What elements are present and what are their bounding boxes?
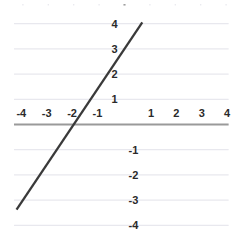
coordinate-plane <box>0 0 241 243</box>
y-tick-label: -2 <box>129 170 139 181</box>
x-tick-label: 4 <box>224 108 230 119</box>
y-tick-label: 4 <box>112 19 118 30</box>
x-tick-label: 3 <box>199 108 205 119</box>
x-tick-label: 2 <box>173 108 179 119</box>
y-tick-label: -4 <box>129 220 139 231</box>
y-tick-label: 2 <box>112 69 118 80</box>
y-tick-label: -3 <box>129 195 139 206</box>
x-tick-label: -2 <box>67 108 77 119</box>
x-tick-label: -1 <box>93 108 103 119</box>
x-tick-label: -4 <box>16 108 26 119</box>
plotted-line <box>17 22 143 209</box>
line-series-group <box>17 22 143 209</box>
y-tick-label: 3 <box>112 44 118 55</box>
y-tick-label: -1 <box>129 145 139 156</box>
graph-screenshot: ) -4-3-2-112344321-1-2-3-4 <box>0 0 241 243</box>
x-tick-label: 1 <box>148 108 154 119</box>
y-tick-label: 1 <box>112 94 118 105</box>
x-tick-label: -3 <box>42 108 52 119</box>
